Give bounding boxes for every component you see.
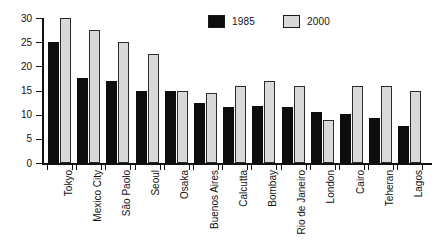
y-tick-label-25: 25 (21, 38, 32, 48)
plot-area: 051015202530 (42, 18, 432, 163)
bar (323, 120, 334, 164)
bar (369, 118, 380, 163)
bar (136, 91, 147, 164)
bar-group (340, 18, 363, 163)
y-tick-label-15: 15 (21, 86, 32, 96)
bar-group (77, 18, 100, 163)
bar-group (48, 18, 71, 163)
bar-group (252, 18, 275, 163)
bar (77, 78, 88, 163)
bars-layer (44, 18, 432, 163)
y-tick-label-30: 30 (21, 14, 32, 24)
y-tick-15: 15 (36, 91, 42, 92)
y-tick-label-0: 0 (26, 159, 32, 169)
y-tick-label-20: 20 (21, 62, 32, 72)
bar (294, 86, 305, 163)
bar (381, 86, 392, 163)
x-axis-label: Seoul (151, 170, 161, 196)
bar (398, 126, 409, 163)
bar (252, 106, 263, 163)
x-axis-label: London (326, 170, 336, 203)
x-axis-label: São Paolo (122, 170, 132, 216)
x-axis-label: Lagos (414, 170, 424, 197)
y-tick-30: 30 (36, 18, 42, 19)
bar-group (165, 18, 188, 163)
x-axis-label: Cairo (356, 170, 366, 194)
bar-group (194, 18, 217, 163)
bar (235, 86, 246, 163)
bar (118, 42, 129, 163)
x-axis-labels: TokyoMexico CitySão PaoloSeoulOsakaBueno… (44, 170, 438, 252)
bar (106, 81, 117, 163)
bar (340, 114, 351, 163)
bar (311, 112, 322, 163)
x-axis-label: Osaka (180, 170, 190, 199)
bar-group (282, 18, 305, 163)
bar (48, 42, 59, 163)
y-tick-0: 0 (36, 163, 42, 164)
bar-group (136, 18, 159, 163)
x-axis-label: Calcutta (239, 170, 249, 207)
y-tick-10: 10 (36, 115, 42, 116)
bar (264, 81, 275, 163)
y-tick-label-5: 5 (26, 134, 32, 144)
y-tick-20: 20 (36, 66, 42, 67)
bar (89, 30, 100, 163)
bar (60, 18, 71, 163)
bar-group (369, 18, 392, 163)
y-tick-label-10: 10 (21, 110, 32, 120)
x-axis-label: Tokyo (64, 170, 74, 196)
x-axis-label: Mexico City (93, 170, 103, 222)
x-axis-label: Bombay (268, 170, 278, 207)
x-axis-label: Rio de Janeiro (297, 170, 307, 234)
x-axis-label: Teheran (385, 170, 395, 206)
bar (177, 91, 188, 164)
bar (223, 107, 234, 163)
bar (410, 91, 421, 164)
bar-group (311, 18, 334, 163)
bar (352, 86, 363, 163)
bar (194, 103, 205, 163)
bar-group (223, 18, 246, 163)
bar (165, 91, 176, 164)
bar (282, 107, 293, 163)
bar (148, 54, 159, 163)
y-tick-5: 5 (36, 139, 42, 140)
bar-group (398, 18, 421, 163)
bar (206, 93, 217, 163)
bar-group (106, 18, 129, 163)
y-tick-25: 25 (36, 42, 42, 43)
bar-chart: 1985 2000 051015202530 TokyoMexico CityS… (0, 0, 438, 252)
x-axis-label: Buenos Aires (210, 170, 220, 229)
